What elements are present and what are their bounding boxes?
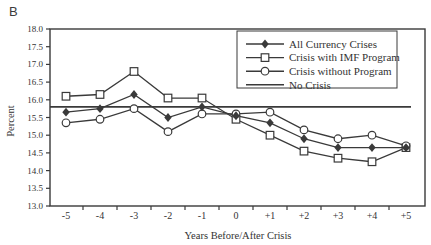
y-tick-label: 14.0: [27, 166, 43, 176]
legend-label: No Crisis: [289, 79, 331, 91]
x-axis-ticks: -5-4-3-2-10+1+2+3+4+5: [62, 206, 411, 221]
line-chart: 18.017.517.016.516.015.515.014.514.013.5…: [0, 0, 431, 245]
legend-label: All Currency Crises: [289, 38, 377, 50]
open-circle-marker: [198, 110, 206, 118]
open-circle-marker: [368, 131, 376, 139]
legend-open-square-marker: [261, 54, 269, 62]
y-tick-label: 17.5: [27, 42, 43, 52]
open-square-marker: [62, 92, 70, 100]
x-tick-label: 0: [234, 210, 239, 221]
x-tick-label: -2: [164, 210, 172, 221]
legend-open-circle-marker: [261, 67, 269, 75]
open-square-marker: [334, 154, 342, 162]
x-tick-label: -1: [198, 210, 206, 221]
filled-diamond-marker: [368, 143, 375, 152]
open-square-marker: [266, 131, 274, 139]
y-tick-label: 17.0: [27, 59, 43, 69]
y-tick-label: 18.0: [27, 24, 43, 34]
x-tick-label: +5: [401, 210, 412, 221]
y-tick-label: 15.5: [27, 113, 43, 123]
y-tick-label: 16.5: [27, 77, 43, 87]
filled-diamond-marker: [266, 118, 273, 127]
filled-diamond-marker: [300, 134, 307, 143]
open-circle-marker: [96, 115, 104, 123]
open-square-marker: [164, 94, 172, 102]
open-circle-marker: [266, 108, 274, 116]
x-tick-label: +3: [333, 210, 344, 221]
y-tick-label: 13.5: [27, 183, 43, 193]
open-square-marker: [300, 147, 308, 155]
y-tick-label: 13.0: [27, 201, 43, 211]
x-tick-label: -4: [96, 210, 104, 221]
open-square-marker: [368, 158, 376, 166]
x-tick-label: +4: [367, 210, 378, 221]
x-tick-label: +2: [299, 210, 310, 221]
filled-diamond-marker: [96, 104, 103, 113]
legend: All Currency CrisesCrisis with IMF Progr…: [237, 31, 400, 91]
filled-diamond-marker: [62, 108, 69, 117]
x-tick-label: +1: [265, 210, 276, 221]
legend-label: Crisis without Program: [289, 65, 392, 77]
y-axis-title: Percent: [5, 105, 16, 137]
filled-diamond-marker: [130, 90, 137, 99]
open-circle-marker: [334, 135, 342, 143]
open-circle-marker: [130, 105, 138, 113]
open-square-marker: [198, 94, 206, 102]
figure-panel: B 18.017.517.016.516.015.515.014.514.013…: [0, 0, 431, 245]
open-circle-marker: [164, 128, 172, 136]
x-axis-title: Years Before/After Crisis: [185, 230, 292, 241]
y-axis-ticks: 18.017.517.016.516.015.515.014.514.013.5…: [27, 24, 50, 211]
y-tick-label: 16.0: [27, 95, 43, 105]
x-tick-label: -5: [62, 210, 70, 221]
legend-label: Crisis with IMF Program: [289, 51, 400, 63]
filled-diamond-marker: [334, 143, 341, 152]
open-square-marker: [96, 91, 104, 99]
filled-diamond-marker: [164, 113, 171, 122]
y-tick-label: 15.0: [27, 130, 43, 140]
open-square-marker: [130, 68, 138, 76]
y-tick-label: 14.5: [27, 148, 43, 158]
filled-diamond-marker: [198, 102, 205, 111]
open-circle-marker: [62, 119, 70, 127]
x-tick-label: -3: [130, 210, 138, 221]
open-circle-marker: [300, 126, 308, 134]
